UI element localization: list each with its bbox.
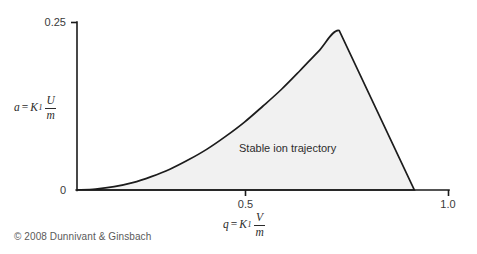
y-axis-label-equals: =	[22, 102, 29, 114]
x-axis-label-variable: q	[223, 219, 229, 231]
stable-region-label: Stable ion trajectory	[239, 142, 337, 154]
y-axis-label-denominator: m	[45, 109, 55, 122]
copyright-notice: © 2008 Dunnivant & Ginsbach	[14, 231, 151, 242]
y-axis-label-fraction: U m	[45, 95, 55, 121]
x-tick-label-mid: 0.5	[238, 198, 253, 210]
y-tick-label-top: 0.25	[45, 16, 66, 28]
x-axis-label-equals: =	[231, 219, 238, 231]
figure-container: 0.25 0 0.5 1.0 Stable ion trajectory a =…	[0, 0, 477, 254]
x-axis-label-fraction: V m	[254, 212, 264, 238]
y-axis-label-constant: K	[30, 102, 38, 114]
stability-region-path	[77, 30, 414, 190]
y-axis-label-numerator: U	[45, 95, 55, 108]
x-axis-label: q = K 1 V m	[223, 212, 265, 238]
y-tick-label-zero: 0	[60, 184, 66, 196]
x-axis-label-denominator: m	[254, 226, 264, 239]
x-axis-label-numerator: V	[255, 212, 264, 225]
y-axis-label-variable: a	[14, 102, 20, 114]
x-tick-label-max: 1.0	[440, 198, 455, 210]
x-axis-label-constant: K	[239, 219, 247, 231]
x-axis-label-subscript: 1	[247, 221, 251, 229]
y-axis-label-subscript: 1	[38, 104, 42, 112]
y-axis-label: a = K 1 U m	[14, 95, 56, 121]
